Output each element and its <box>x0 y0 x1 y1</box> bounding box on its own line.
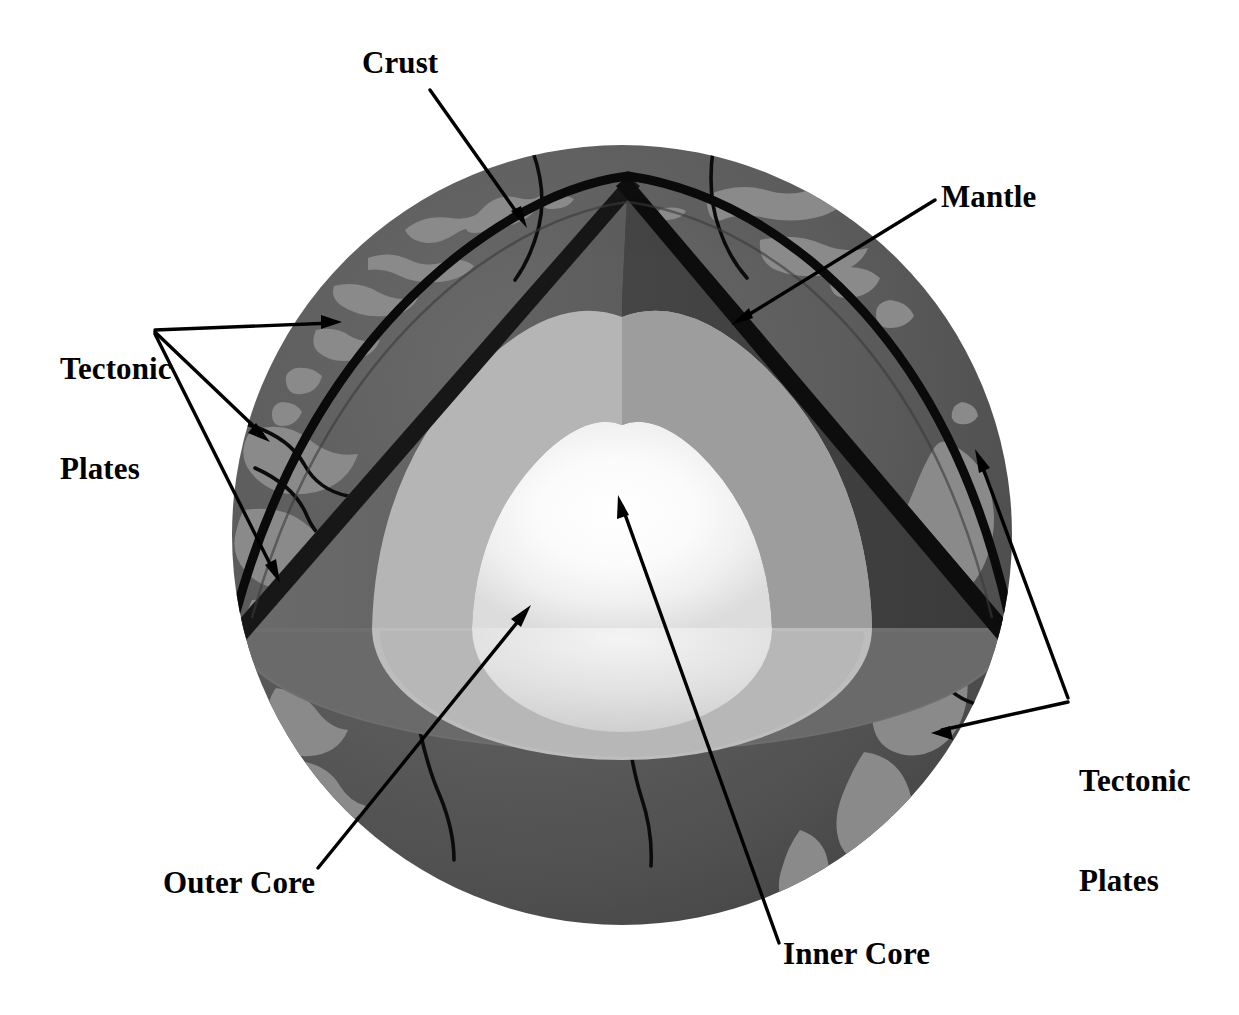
label-mantle: Mantle <box>941 180 1036 213</box>
label-tectonic-plates-left: Tectonic Plates <box>60 285 172 553</box>
label-tectonic-plates-right-line1: Tectonic <box>1079 764 1191 797</box>
earth-cutaway-diagram: Crust Mantle Tectonic Plates Tectonic Pl… <box>0 0 1239 1015</box>
label-tectonic-plates-left-line2: Plates <box>60 452 172 485</box>
label-tectonic-plates-right: Tectonic Plates <box>1079 697 1191 965</box>
label-tectonic-plates-right-line2: Plates <box>1079 864 1191 897</box>
label-crust: Crust <box>362 46 438 79</box>
earth-illustration <box>0 0 1239 1015</box>
label-outer-core: Outer Core <box>163 866 315 899</box>
label-inner-core: Inner Core <box>783 937 930 970</box>
label-tectonic-plates-left-line1: Tectonic <box>60 352 172 385</box>
tectonic-left-arrow-2 <box>155 332 270 442</box>
